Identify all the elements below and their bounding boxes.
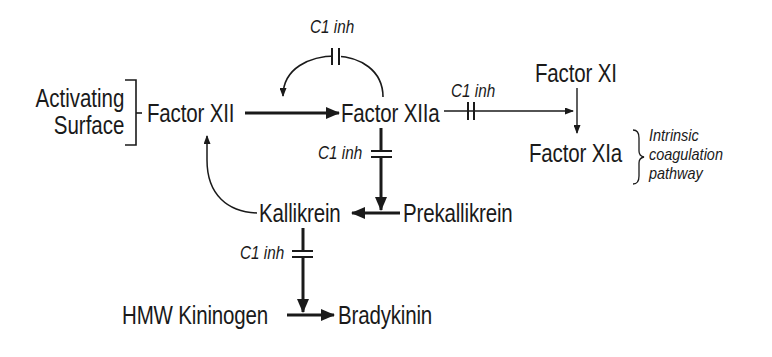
activating-surface-line1: Activating [35, 85, 124, 112]
annotation-line3: pathway [649, 164, 723, 183]
surface-bracket [125, 80, 142, 145]
intrinsic-brace [633, 130, 644, 184]
c1-inh-label-top: C1 inh [310, 17, 354, 38]
kallikrein-feedback-arc [207, 136, 257, 213]
node-factor-xiia: Factor XIIa [341, 100, 439, 126]
c1-inh-label-xi: C1 inh [451, 81, 495, 102]
node-kallikrein: Kallikrein [259, 200, 341, 226]
annotation-line1: Intrinsic [649, 126, 723, 145]
node-factor-xii: Factor XII [147, 100, 234, 126]
c1-inh-label-bradykinin: C1 inh [240, 243, 284, 264]
intrinsic-pathway-annotation: Intrinsic coagulation pathway [649, 126, 723, 183]
node-bradykinin: Bradykinin [338, 302, 432, 328]
activating-surface-line2: Surface [35, 112, 124, 139]
inhibitor-symbol-bradykinin [292, 250, 314, 258]
inhibitor-symbol-kallikrein [371, 150, 393, 158]
activating-surface-label: Activating Surface [35, 85, 124, 139]
node-factor-xi: Factor XI [535, 60, 617, 86]
node-hmw-kininogen: HMW Kininogen [122, 302, 268, 328]
node-prekallikrein: Prekallikrein [403, 200, 513, 226]
annotation-line2: coagulation [649, 145, 723, 164]
c1-inh-label-kallikrein: C1 inh [318, 143, 362, 164]
node-factor-xia: Factor XIa [529, 140, 622, 166]
inhibitor-symbol-top [331, 48, 341, 65]
